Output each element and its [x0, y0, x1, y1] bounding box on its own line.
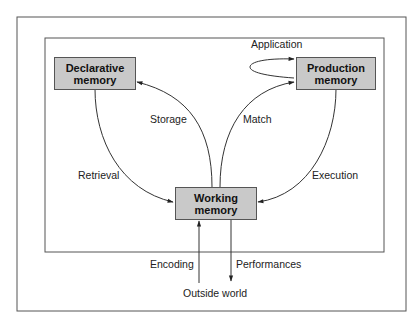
working-memory-label-2: memory [195, 204, 238, 216]
application-loop-arrow [250, 59, 294, 78]
execution-arrow [258, 89, 336, 202]
retrieval-label: Retrieval [78, 169, 119, 181]
storage-arrow [137, 82, 212, 187]
performances-label: Performances [236, 258, 301, 270]
working-memory-node: Workingmemory [175, 187, 257, 220]
execution-label: Execution [312, 169, 358, 181]
production-memory-label-1: Production [307, 62, 365, 74]
outside-world-label: Outside world [183, 287, 247, 299]
retrieval-arrow [95, 89, 173, 202]
production-memory-node: Productionmemory [296, 57, 376, 90]
declarative-memory-label-1: Declarative [66, 62, 125, 74]
working-memory-label-1: Working [194, 192, 238, 204]
storage-label: Storage [150, 113, 187, 125]
match-arrow [220, 82, 294, 187]
declarative-memory-label-2: memory [74, 74, 117, 86]
diagram-canvas [0, 0, 418, 321]
production-memory-label-2: memory [315, 74, 358, 86]
encoding-label: Encoding [150, 258, 194, 270]
declarative-memory-node: Declarativememory [54, 57, 136, 90]
application-label: Application [251, 38, 302, 50]
match-label: Match [243, 113, 272, 125]
